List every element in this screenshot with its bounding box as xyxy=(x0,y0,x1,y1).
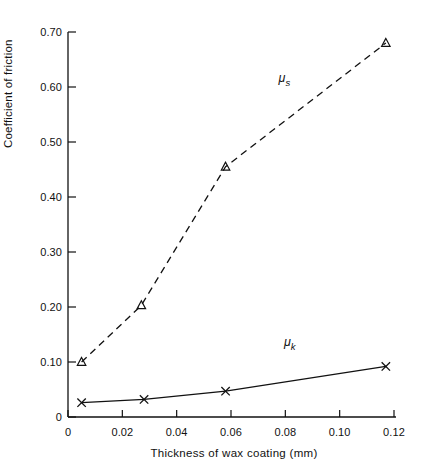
mu-s-subscript: s xyxy=(285,76,290,87)
mu-k-subscript: k xyxy=(291,340,296,351)
y-tick-label-5: 0.50 xyxy=(0,136,62,148)
x-tick-label-5: 0.10 xyxy=(329,426,351,438)
series-annotation-mu-k: μk xyxy=(284,335,296,352)
series-line-mu_k xyxy=(82,366,386,402)
x-tick-label-2: 0.04 xyxy=(166,426,188,438)
friction-chart-figure: Coefficient of friction Thickness of wax… xyxy=(0,0,432,475)
data-point-mu_s-1 xyxy=(137,301,145,309)
y-axis-label: Coefficient of friction xyxy=(2,0,14,148)
y-tick-label-7: 0.70 xyxy=(0,26,62,38)
data-point-mu_s-3 xyxy=(382,38,390,46)
y-tick-label-6: 0.60 xyxy=(0,81,62,93)
series-line-mu_s xyxy=(82,43,386,362)
x-tick-label-3: 0.06 xyxy=(220,426,242,438)
y-tick-label-4: 0.40 xyxy=(0,191,62,203)
y-tick-label-2: 0.20 xyxy=(0,301,62,313)
mu-k-symbol: μ xyxy=(284,335,291,349)
series-annotation-mu-s: μs xyxy=(279,71,291,88)
y-tick-label-0: 0 xyxy=(0,411,62,423)
x-tick-label-4: 0.08 xyxy=(274,426,296,438)
y-tick-label-1: 0.10 xyxy=(0,356,62,368)
y-tick-label-3: 0.30 xyxy=(0,246,62,258)
x-tick-label-0: 0 xyxy=(65,426,71,438)
x-tick-label-6: 0.12 xyxy=(383,426,405,438)
x-axis-label: Thickness of wax coating (mm) xyxy=(0,447,432,459)
plot-canvas xyxy=(0,0,432,475)
x-tick-label-1: 0.02 xyxy=(111,426,133,438)
